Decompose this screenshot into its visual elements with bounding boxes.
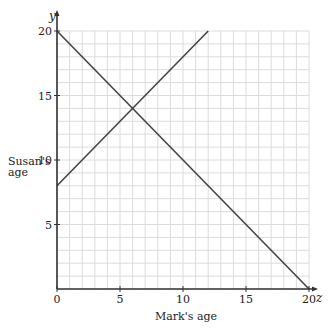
x-axis-variable: z	[315, 291, 323, 305]
line-chart: 051015205101520 y z Susan's age Mark's a…	[0, 0, 332, 330]
y-axis-variable: y	[48, 9, 56, 23]
x-tick-label: 0	[54, 293, 61, 306]
x-tick-label: 15	[239, 293, 253, 306]
x-tick-label: 10	[176, 293, 190, 306]
x-tick-label: 5	[117, 293, 124, 306]
x-tick-label: 20	[302, 293, 316, 306]
axes	[55, 10, 319, 292]
y-tick-label: 5	[45, 219, 52, 232]
x-axis-title: Mark's age	[155, 310, 217, 323]
tick-labels: 051015205101520	[38, 25, 316, 306]
y-tick-label: 20	[38, 25, 52, 38]
y-axis-title-line2: age	[8, 166, 28, 179]
y-tick-label: 15	[38, 90, 52, 103]
